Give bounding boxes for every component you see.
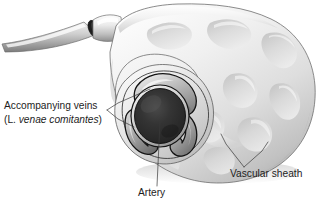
- label-latin-term: venae comitantes: [19, 114, 99, 125]
- label-vascular-sheath: Vascular sheath: [230, 168, 302, 179]
- label-latin-prefix: (L.: [4, 114, 19, 125]
- label-latin-suffix: ): [99, 114, 102, 125]
- illustration-canvas: Accompanying veins (L. venae comitantes)…: [0, 0, 319, 205]
- artery: [131, 85, 189, 147]
- label-accompanying-veins-line2: (L. venae comitantes): [4, 114, 102, 125]
- vascular-cross-section: [115, 65, 214, 164]
- label-artery: Artery: [138, 187, 166, 198]
- artery-lumen: [135, 89, 186, 144]
- anatomical-figure: Accompanying veins (L. venae comitantes)…: [0, 0, 319, 205]
- label-accompanying-veins-line1: Accompanying veins: [4, 100, 97, 111]
- cut-tubular-branch: [2, 15, 123, 52]
